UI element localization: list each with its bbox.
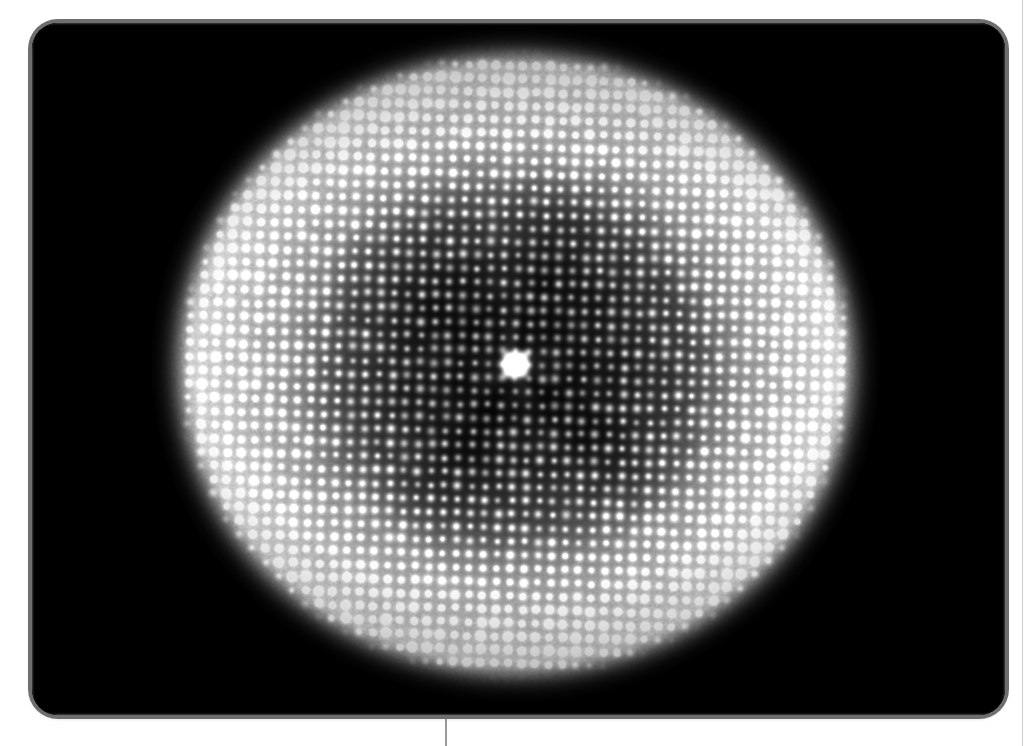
image-panel[interactable] bbox=[32, 23, 1005, 715]
figure-stage: Greyscale micrograph: circular illuminat… bbox=[0, 0, 1030, 746]
micrograph-canvas[interactable] bbox=[32, 23, 1005, 715]
figure-description: Greyscale micrograph: circular illuminat… bbox=[0, 0, 1, 1]
image-panel-inner bbox=[32, 23, 1005, 715]
right-edge-rule bbox=[1022, 0, 1023, 746]
bottom-center-rule bbox=[445, 713, 447, 746]
